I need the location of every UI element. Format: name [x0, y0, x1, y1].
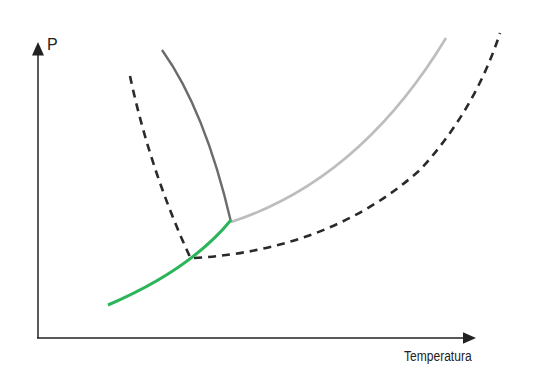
dashed-vaporization-curve — [194, 33, 500, 258]
x-axis-label: Temperatura — [404, 348, 472, 364]
y-axis-label: P — [47, 36, 58, 54]
vaporization-curve — [231, 38, 446, 222]
phase-diagram — [0, 0, 536, 380]
sublimation-curve — [108, 220, 231, 305]
dashed-fusion-curve — [130, 76, 190, 257]
fusion-curve — [162, 50, 231, 222]
